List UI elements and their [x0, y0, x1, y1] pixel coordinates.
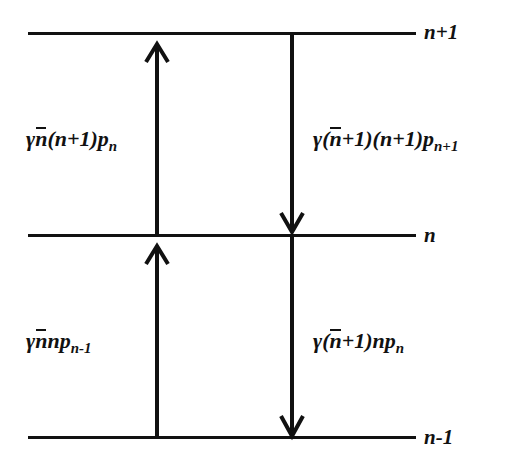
rate-gamma: γ — [313, 328, 322, 353]
rate-label-lower-left: γnnpn-1 — [26, 330, 91, 356]
rate-nbar: n — [35, 128, 47, 150]
rate-gamma: γ — [313, 126, 322, 151]
rate-p: p — [98, 126, 109, 151]
rate-factor: n — [47, 328, 59, 353]
rate-label-upper-right: γ(n+1)(n+1)pn+1 — [313, 128, 458, 154]
rate-open-paren: ( — [322, 126, 329, 151]
level-label-n-minus-1: n-1 — [424, 427, 453, 448]
transition-arrows — [0, 0, 529, 466]
rate-plus-one: +1) — [342, 126, 373, 151]
rate-p-subscript: n-1 — [71, 340, 92, 356]
level-label-n-plus-1: n+1 — [424, 22, 458, 43]
level-label-n: n — [424, 225, 436, 246]
rate-label-lower-right: γ(n+1)npn — [313, 330, 404, 356]
rate-nbar: n — [35, 330, 47, 352]
rate-open-paren: ( — [322, 328, 329, 353]
rate-gamma: γ — [26, 328, 35, 353]
rate-nbar: n — [329, 330, 341, 352]
rate-nbar: n — [329, 128, 341, 150]
rate-p-subscript: n — [396, 340, 404, 356]
rate-p: p — [60, 328, 71, 353]
rate-p: p — [423, 126, 434, 151]
rate-p-subscript: n — [109, 138, 117, 154]
rate-plus-one: +1) — [342, 328, 373, 353]
energy-level-diagram: n+1 n n-1 γn(n+1)pn γ(n+1)(n+1)pn+1 γnnp… — [0, 0, 529, 466]
rate-gamma: γ — [26, 126, 35, 151]
rate-label-upper-left: γn(n+1)pn — [26, 128, 117, 154]
rate-factor: (n+1) — [373, 126, 423, 151]
rate-p: p — [385, 328, 396, 353]
rate-factor: (n+1) — [47, 126, 97, 151]
rate-p-subscript: n+1 — [434, 138, 458, 154]
rate-factor: n — [373, 328, 385, 353]
